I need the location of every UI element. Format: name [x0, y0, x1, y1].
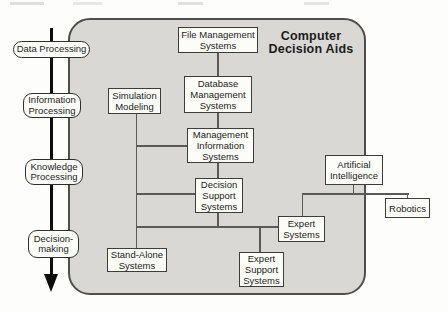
- connector-simulation-to-standalone: [136, 112, 138, 249]
- node-artificial-intelligence: Artificial Intelligence: [325, 155, 383, 185]
- node-stand-alone-systems: Stand-Alone Systems: [107, 248, 167, 272]
- stage-decision-making: Decision- making: [28, 230, 79, 258]
- connector-ai-to-expert-systems: [302, 193, 304, 217]
- node-expert-systems: Expert Systems: [278, 216, 325, 242]
- node-file-management-systems: File Management Systems: [178, 27, 258, 53]
- panel-title: Computer Decision Aids: [264, 30, 358, 55]
- node-database-management-systems: Database Management Systems: [184, 76, 252, 113]
- node-decision-support-systems: Decision Support Systems: [195, 178, 243, 213]
- connector-branch-to-expert-support: [259, 226, 261, 253]
- arrow-down-icon: [44, 274, 58, 292]
- connector-dss-to-branch: [217, 212, 219, 227]
- node-management-information-systems: Management Information Systems: [187, 128, 254, 163]
- scan-artifact-strip: [10, 2, 430, 5]
- node-simulation-modeling: Simulation Modeling: [108, 88, 161, 114]
- connector-branch-to-dss: [136, 193, 196, 195]
- connector-branch-to-expert-systems: [136, 226, 279, 228]
- connector-mis-to-dss: [217, 162, 219, 179]
- connector-ai-branch: [302, 193, 409, 195]
- stage-data-processing: Data Processing: [13, 41, 90, 58]
- node-robotics: Robotics: [385, 198, 430, 218]
- connector-file-to-database: [217, 52, 219, 77]
- stage-information-processing: Information Processing: [23, 93, 81, 118]
- node-expert-support-systems: Expert Support Systems: [239, 252, 284, 287]
- connector-database-to-mis: [217, 112, 219, 129]
- connector-branch-to-mis: [136, 145, 188, 147]
- figure-canvas: Computer Decision Aids Data Processing I…: [0, 0, 448, 312]
- stage-knowledge-processing: Knowledge Processing: [25, 159, 83, 185]
